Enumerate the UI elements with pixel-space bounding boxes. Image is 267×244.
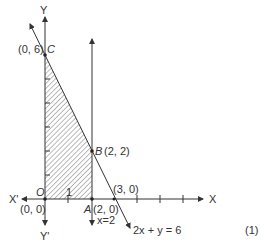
point-c-label: C	[47, 43, 55, 55]
x-neg-label: X'	[9, 193, 18, 205]
line-oblique-label: 2x + y = 6	[133, 224, 181, 236]
point-a	[90, 197, 94, 201]
point-c-coords: (0, 6)	[18, 43, 44, 55]
point-b-label: B	[95, 145, 102, 157]
lp-diagram: Y Y' X X' O (0, 0) 1 (0, 6) C B (2, 2) A…	[0, 0, 267, 244]
line-x-2-label: x=2	[97, 214, 115, 226]
point-b	[90, 149, 94, 153]
origin-label: O	[36, 186, 45, 198]
y-label: Y	[40, 4, 48, 16]
origin-coords: (0, 0)	[20, 203, 46, 215]
point-x-intercept	[113, 198, 116, 201]
point-b-coords: (2, 2)	[104, 145, 130, 157]
point-a-label: A	[83, 203, 91, 215]
y-neg-label: Y'	[40, 230, 49, 242]
x-label: X	[209, 193, 217, 205]
x-intercept-coords: (3, 0)	[113, 183, 139, 195]
feasible-region	[45, 55, 92, 199]
x-tick-label-1: 1	[66, 186, 72, 198]
equation-number: (1)	[245, 224, 258, 236]
